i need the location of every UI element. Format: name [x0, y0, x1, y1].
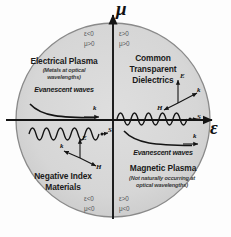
ul-wave-label: Evanescent waves — [16, 87, 112, 95]
mu-axis-label: μ — [116, 0, 127, 20]
lr-wave-label: Evanescent waves — [117, 150, 209, 158]
ur-quadrant-title-line1: Common — [117, 54, 189, 63]
ul-mu-condition: μ>0 — [84, 41, 95, 48]
ur-S-vector-label: S — [197, 113, 201, 121]
ll-mu-condition: μ<0 — [84, 206, 95, 213]
ul-quadrant-title: Electrical Plasma — [18, 57, 110, 66]
ll-S-vector-label: S — [108, 126, 112, 134]
ll-epsilon-condition: ε<0 — [84, 196, 94, 203]
ur-H-vector-label: H — [157, 104, 162, 112]
ur-E-vector-label: E — [180, 72, 185, 80]
ll-H-vector-label: H — [96, 163, 101, 171]
ur-k-vector-label: k — [197, 86, 201, 94]
permittivity-permeability-diagram: μ ε ε<0 μ>0 Electrical Plasma (Metals at… — [0, 0, 231, 237]
ll-quadrant-title-line1: Negative Index — [16, 172, 110, 181]
ul-quadrant-subtitle-line2: wavelengths) — [18, 75, 110, 81]
ur-mu-condition: μ>0 — [119, 41, 130, 48]
ur-epsilon-condition: ε>0 — [119, 31, 129, 38]
epsilon-axis-label: ε — [210, 117, 218, 139]
ul-epsilon-condition: ε<0 — [84, 31, 94, 38]
ur-quadrant-title-line3: Dielectrics — [117, 76, 189, 85]
lr-mu-condition: μ<0 — [119, 206, 130, 213]
lr-epsilon-condition: ε>0 — [119, 196, 129, 203]
ur-quadrant-title-line2: Transparent — [117, 65, 189, 74]
ul-k-vector-label: k — [93, 104, 97, 112]
ll-E-vector-label: E — [82, 134, 87, 142]
lr-quadrant-subtitle-line2: optical wavelengths) — [114, 183, 210, 189]
ll-quadrant-title-line2: Materials — [16, 183, 110, 192]
ll-k-vector-label: k — [60, 142, 64, 150]
lr-quadrant-title: Magnetic Plasma — [116, 164, 210, 173]
lr-k-vector-label: k — [193, 132, 197, 140]
